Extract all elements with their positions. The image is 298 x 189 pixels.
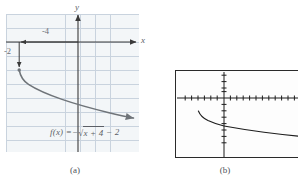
panel-b: (b) <box>150 0 298 189</box>
equation-radical: √x + 4 <box>78 127 103 138</box>
equation-lhs: f(x) = <box>50 127 72 137</box>
figure-container: y x -4 -2 f(x) =−√x + 4 − 2 (a) <box>0 0 298 189</box>
calc-function-curve <box>198 111 298 137</box>
calculator-screen <box>175 70 298 158</box>
function-curve <box>19 70 133 118</box>
vertical-shift-label: -2 <box>4 47 11 56</box>
radicand: x + 4 <box>83 127 103 137</box>
panel-a-caption: (a) <box>0 165 150 175</box>
panel-a: y x -4 -2 f(x) =−√x + 4 − 2 (a) <box>0 0 150 189</box>
x-axis-label: x <box>141 36 145 45</box>
panel-a-graph <box>0 0 150 189</box>
equation-trailing: − 2 <box>106 127 119 137</box>
y-axis-label: y <box>75 3 79 12</box>
calculator-graph <box>176 71 298 158</box>
function-equation: f(x) =−√x + 4 − 2 <box>50 127 119 137</box>
radical-overbar <box>83 126 103 127</box>
horizontal-shift-label: -4 <box>42 27 49 36</box>
curve-endpoint-dot <box>18 68 21 71</box>
panel-b-caption: (b) <box>160 165 290 175</box>
